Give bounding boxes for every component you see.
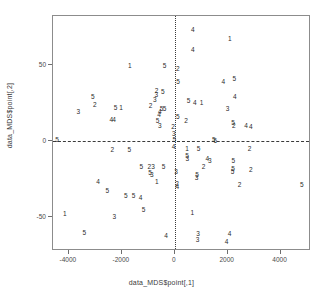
data-point: 3 [150,171,154,178]
data-point: 5 [105,188,109,195]
x-tick [121,250,122,254]
scatter-plot-figure: 4141525452535435412251553344544525244323… [0,0,323,300]
data-point: 5 [197,146,201,153]
data-point: 4 [233,94,237,101]
x-tick [174,250,175,254]
data-point: 3 [195,175,199,182]
x-tick-label: -2000 [112,256,129,263]
data-point: 5 [231,158,235,165]
data-point: 1 [63,211,67,218]
data-point: 2 [110,147,114,154]
data-point: 4 [193,100,197,107]
data-point: 5 [132,193,136,200]
x-tick [68,250,69,254]
y-tick [48,64,52,65]
plot-panel: 4141525452535435412251553344544525244323… [52,15,310,250]
data-point: 5 [231,168,235,175]
data-point: 5 [163,106,167,113]
data-point: 1 [128,63,132,70]
data-point: 4 [228,231,232,238]
data-point: 5 [127,147,131,154]
data-point: 5 [82,229,86,236]
y-tick-label: -50 [37,213,46,220]
x-axis-label: data_MDS$point[,1] [0,279,323,286]
data-point: 2 [248,146,252,153]
data-point: 5 [163,63,167,70]
data-point: 2 [249,167,253,174]
data-point: 4 [176,184,180,191]
data-point: 5 [124,193,128,200]
data-point: 5 [142,207,146,214]
data-point: 1 [155,179,159,186]
data-point: 5 [91,94,95,101]
data-point: 2 [202,164,206,171]
x-tick [227,250,228,254]
data-point: 3 [186,156,190,163]
data-point: 3 [158,123,162,130]
data-point: 6 [213,138,217,145]
y-tick-label: 50 [39,60,46,67]
data-point: 4 [225,239,229,246]
data-point: 3 [153,97,157,104]
data-point: 2 [238,182,242,189]
data-point: 5 [300,182,304,189]
data-point: 4 [164,232,168,239]
data-point: 5 [172,136,176,143]
data-point: 2 [176,66,180,73]
data-point: 5 [161,89,165,96]
data-point: 4 [191,46,195,53]
data-point: 5 [187,98,191,105]
data-point: 5 [176,78,180,85]
y-axis-label: data_MDS$point[,2] [6,61,13,171]
data-point: 5 [140,164,144,171]
data-point: 5 [55,136,59,143]
data-point: 4 [222,78,226,85]
data-point: 2 [184,118,188,125]
horizontal-reference-line [53,141,309,142]
data-point: 3 [226,106,230,113]
data-point: 3 [113,214,117,221]
x-tick-label: 2000 [219,256,233,263]
data-point: 4 [191,26,195,33]
data-point: 5 [162,164,166,171]
data-point: 3 [77,109,81,116]
data-point: 1 [185,146,189,153]
data-point: 5 [176,113,180,120]
data-point: 4 [172,144,176,151]
data-point: 2 [93,101,97,108]
data-point: 1 [190,210,194,217]
plot-area: 4141525452535435412251553344544525244323… [53,16,309,249]
x-axis: -4000-2000020004000 [52,250,310,270]
data-point: 5 [114,104,118,111]
data-point: 4 [244,123,248,130]
data-point: 2 [149,103,153,110]
y-tick [48,216,52,217]
x-tick [280,250,281,254]
data-point: 1 [228,36,232,43]
data-point: 3 [174,168,178,175]
x-tick-label: -4000 [60,256,77,263]
data-point: 2 [232,123,236,130]
data-point: 3 [208,158,212,165]
data-point: 4 [249,124,253,131]
y-axis: 500-50 [32,15,52,250]
data-point: 4 [139,194,143,201]
data-point: 5 [232,75,236,82]
y-tick-label: 0 [42,137,46,144]
y-tick [48,140,52,141]
x-tick-label: 4000 [272,256,286,263]
data-point: 1 [200,100,204,107]
data-point: 4 [112,117,116,124]
data-point: 4 [96,179,100,186]
data-point: 1 [119,104,123,111]
data-point: 3 [196,237,200,244]
x-tick-label: 0 [172,256,176,263]
